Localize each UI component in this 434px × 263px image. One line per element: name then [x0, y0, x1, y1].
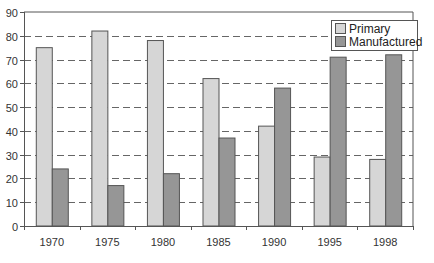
bar-manufactured-1980 [163, 174, 179, 226]
y-tick-label: 70 [6, 55, 18, 67]
x-axis-ticks: 1970197519801985199019951998 [40, 226, 414, 248]
bar-manufactured-1970 [52, 169, 68, 226]
x-tick-label: 1970 [40, 236, 64, 248]
bar-primary-1970 [36, 48, 52, 226]
y-tick-label: 0 [12, 221, 18, 233]
bar-primary-1995 [314, 157, 330, 226]
x-tick-label: 1995 [317, 236, 341, 248]
y-tick-label: 80 [6, 31, 18, 43]
y-tick-label: 20 [6, 173, 18, 185]
x-tick-label: 1998 [373, 236, 397, 248]
y-tick-label: 40 [6, 126, 18, 138]
x-tick-label: 1975 [95, 236, 119, 248]
bar-primary-1985 [203, 79, 219, 226]
bar-manufactured-1998 [386, 55, 402, 226]
y-tick-label: 50 [6, 102, 18, 114]
x-tick-label: 1985 [206, 236, 230, 248]
bar-manufactured-1990 [275, 88, 291, 226]
bar-chart: 0102030405060708090 19701975198019851990… [0, 0, 434, 263]
bar-manufactured-1995 [330, 57, 346, 226]
legend: PrimaryManufactured [332, 21, 423, 51]
bar-primary-1980 [147, 41, 163, 226]
bar-primary-1990 [259, 126, 275, 226]
bar-manufactured-1975 [108, 186, 124, 226]
legend-swatch-primary [336, 24, 346, 34]
x-tick-label: 1980 [151, 236, 175, 248]
bar-primary-1998 [370, 159, 386, 226]
y-tick-label: 90 [6, 7, 18, 19]
legend-swatch-manufactured [336, 37, 346, 47]
y-tick-label: 30 [6, 150, 18, 162]
legend-label-manufactured: Manufactured [349, 35, 422, 49]
legend-label-primary: Primary [349, 22, 390, 36]
y-tick-label: 10 [6, 197, 18, 209]
y-tick-label: 60 [6, 78, 18, 90]
bar-primary-1975 [92, 31, 108, 226]
y-axis-ticks: 0102030405060708090 [6, 7, 24, 233]
bar-manufactured-1985 [219, 138, 235, 226]
x-tick-label: 1990 [262, 236, 286, 248]
